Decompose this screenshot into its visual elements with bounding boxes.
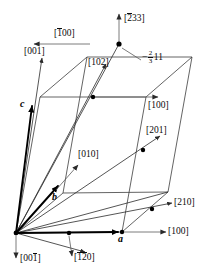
fraction-sign: − [142,53,147,63]
label-1bar2bar0-bar: 12 [77,252,87,263]
leader-frac [122,48,141,60]
vector-c [16,106,32,233]
edge-C-BC [40,57,87,97]
edge-AB-ABC [168,57,192,192]
fraction-trailing-indices: 11 [154,53,163,63]
arrow-1bar2bar0-down [69,236,72,256]
axis-label-a: a [118,234,123,244]
dot-210-mid [150,207,154,211]
axis-label-b: b [52,192,57,202]
label-100-bot: [100] [168,227,189,237]
dot-c-face-mid [91,95,95,99]
fraction-numerator: 2 [148,50,154,57]
label-010: [010] [78,150,99,160]
label-201: [201] [146,126,167,136]
label-2bar33-rest: 33] [132,13,145,23]
crystal-direction-diagram: [100] [001] [102] [233] −2311 [100] [010… [0,0,214,278]
edge-O-C [16,97,40,233]
label-1bar2bar0-rest: 0] [87,252,95,262]
dot-a-mid [67,231,71,235]
label-1bar2bar0: [120] [74,252,95,263]
direction-vector-lines [16,44,172,252]
label-1bar00: [100] [54,28,75,39]
label-001bar-rest: ] [37,253,40,263]
axis-label-c: c [20,99,24,109]
lattice-point-dots [14,41,155,235]
fraction-two-thirds: 23 [148,50,154,65]
label-001bar-open: [00 [20,253,33,263]
line-origin-to-AB [16,192,168,233]
label-001bar: [001] [20,253,41,264]
line-1bar2bar0-ray [16,233,85,252]
label-100-mid: [100] [148,101,169,111]
dot-origin [14,231,19,236]
dot-201-mid [141,148,145,152]
label-001: [001] [24,47,45,57]
label-102: [102] [88,58,109,68]
dot-top-face [116,41,121,46]
label-2bar33: [233] [124,13,145,24]
line-2bar33 [16,44,119,233]
fraction-denominator: 3 [148,57,154,65]
label-fraction-annotation: −2311 [142,50,163,65]
label-210: [210] [174,198,195,208]
unit-cell-edges [16,57,192,233]
edge-B-AB [63,192,168,193]
label-1bar00-rest: 00] [62,28,75,38]
